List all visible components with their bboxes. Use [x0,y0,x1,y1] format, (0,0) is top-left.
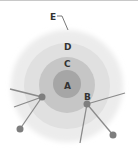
node-left [39,94,46,101]
endpoint-left [17,126,24,133]
falloff-diagram: E D C A B [0,0,138,154]
label-e: E [50,12,56,22]
endpoint-right [110,132,117,139]
label-d: D [64,42,71,52]
label-a: A [64,81,71,91]
label-b: B [84,92,91,102]
label-c: C [64,59,71,69]
label-e-leader [57,16,68,30]
